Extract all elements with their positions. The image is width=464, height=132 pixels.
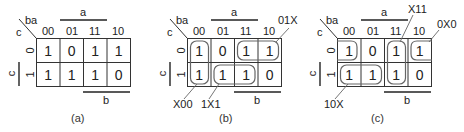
kmap-b: ba c a 00 01 11 10 0 1 c b 1 0 1 1 1 1 1… — [151, 0, 306, 132]
cell: 1 — [361, 63, 385, 87]
top-bar-label: a — [231, 7, 237, 18]
cell: 0 — [60, 39, 84, 63]
corner-col-var: ba — [326, 15, 338, 26]
kmap-a: ba c a 00 01 11 10 0 1 c b 1 0 1 1 1 1 1… — [0, 0, 155, 132]
cell: 1 — [37, 39, 61, 63]
corner-col-var: ba — [25, 15, 37, 26]
group-label-x11: X11 — [408, 4, 427, 15]
corner-col-var: ba — [176, 15, 188, 26]
row-header: 1 — [326, 71, 337, 77]
group-label-0x0: 0X0 — [437, 19, 457, 30]
row-header: 0 — [326, 47, 337, 53]
side-bar-label: c — [6, 71, 17, 77]
group-label-10x: 10X — [324, 99, 344, 110]
col-header: 10 — [413, 26, 425, 37]
side-bar-label: c — [157, 71, 168, 77]
bottom-bar-label: b — [254, 95, 260, 106]
group-label-1x1: 1X1 — [201, 99, 221, 110]
row-header: 0 — [176, 47, 187, 53]
cell: 1 — [385, 39, 409, 63]
cell: 1 — [338, 63, 362, 87]
cell: 1 — [37, 63, 61, 87]
cell: 1 — [60, 63, 84, 87]
col-header: 01 — [66, 26, 78, 37]
bottom-bar-label: b — [103, 95, 109, 106]
cell: 0 — [211, 39, 235, 63]
col-header: 10 — [263, 26, 275, 37]
col-header: 11 — [89, 26, 100, 37]
cell: 1 — [188, 63, 212, 87]
col-header: 11 — [240, 26, 251, 37]
group-label-x00: X00 — [173, 99, 193, 110]
row-header: 1 — [176, 71, 187, 77]
cell: 1 — [107, 39, 131, 63]
cell: 0 — [361, 39, 385, 63]
corner-row-var: c — [167, 27, 173, 38]
row-header: 0 — [25, 47, 36, 53]
caption: (c) — [371, 112, 384, 124]
kmap-c: ba c a 00 01 11 10 0 1 c b 1 0 1 1 1 1 1… — [301, 0, 456, 132]
top-bar-label: a — [80, 7, 86, 18]
cell: 1 — [235, 39, 259, 63]
cell: 0 — [408, 63, 432, 87]
cell: 0 — [258, 63, 282, 87]
col-header: 00 — [343, 26, 355, 37]
col-header: 00 — [42, 26, 54, 37]
side-bar-label: c — [307, 71, 318, 77]
cell: 1 — [188, 39, 212, 63]
cell: 1 — [84, 39, 108, 63]
corner-row-var: c — [16, 27, 22, 38]
col-header: 10 — [112, 26, 124, 37]
cell: 1 — [385, 63, 409, 87]
caption: (a) — [71, 112, 84, 124]
cell: 1 — [84, 63, 108, 87]
cell: 1 — [408, 39, 432, 63]
group-label-01x: 01X — [278, 15, 298, 26]
corner-row-var: c — [317, 27, 323, 38]
cell: 1 — [235, 63, 259, 87]
cell: 1 — [338, 39, 362, 63]
cell: 0 — [107, 63, 131, 87]
col-header: 01 — [217, 26, 229, 37]
col-header: 11 — [390, 26, 401, 37]
col-header: 00 — [193, 26, 205, 37]
cell: 1 — [258, 39, 282, 63]
cell: 1 — [211, 63, 235, 87]
bottom-bar-label: b — [404, 95, 410, 106]
col-header: 01 — [367, 26, 379, 37]
caption: (b) — [219, 112, 232, 124]
top-bar-label: a — [381, 7, 387, 18]
row-header: 1 — [25, 71, 36, 77]
